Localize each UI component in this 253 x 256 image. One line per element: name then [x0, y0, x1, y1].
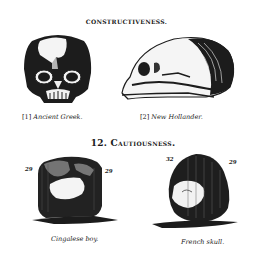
french-left-number: 32	[166, 156, 174, 162]
figure-caption: New Hollander.	[151, 113, 202, 121]
figure-caption: Ancient Greek.	[33, 113, 82, 121]
caption-ancient-greek: [1] Ancient Greek.	[22, 113, 83, 121]
caption-new-hollander: [2] New Hollander.	[140, 113, 203, 121]
caption-cingalese-boy: Cingalese boy.	[51, 235, 98, 243]
new-hollander-skull-icon	[118, 35, 238, 101]
french-right-number: 29	[229, 159, 237, 165]
figure-caption: French skull.	[181, 238, 224, 246]
figure-index: [2]	[140, 113, 149, 121]
cingalese-left-number: 29	[25, 166, 33, 172]
heading-cautiousness: 12. Cautiousness.	[38, 138, 228, 148]
cingalese-right-number: 29	[105, 168, 113, 174]
cingalese-boy-skull-icon	[34, 154, 124, 226]
caption-french-skull: French skull.	[181, 238, 224, 246]
heading-constructiveness: CONSTRUCTIVENESS.	[0, 18, 253, 25]
ancient-greek-skull-icon	[22, 33, 94, 103]
figure-index: [1]	[22, 113, 31, 121]
figure-caption: Cingalese boy.	[51, 235, 98, 243]
